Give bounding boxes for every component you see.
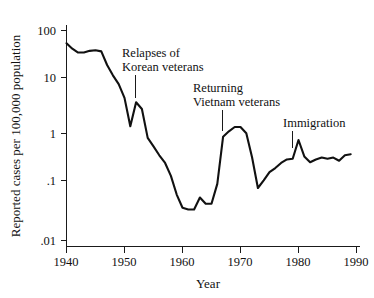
annotation-returning-vietnam-line2: Vietnam veterans: [193, 95, 280, 109]
annotation-relapses-korean-line2: Korean veterans: [122, 60, 204, 74]
axis-lines: [67, 25, 361, 247]
tuberculosis-log-line-chart: 100 10 1 .1 .01 1940 1950 1960 1970 1980…: [0, 0, 374, 298]
x-tick-label-1950: 1950: [112, 255, 137, 269]
x-tick-label-1970: 1970: [228, 255, 253, 269]
x-axis-title: Year: [196, 276, 221, 291]
annotation-relapses-korean-line1: Relapses of: [122, 46, 181, 60]
annotation-relapses-korean: Relapses of Korean veterans: [122, 46, 204, 74]
annotation-immigration: Immigration: [283, 116, 346, 130]
x-tick-label-1960: 1960: [170, 255, 195, 269]
x-axis-tick-labels: 1940 1950 1960 1970 1980 1990: [54, 255, 369, 269]
y-axis-ticks: [61, 31, 67, 241]
annotation-returning-vietnam: Returning Vietnam veterans: [193, 81, 280, 109]
x-axis-ticks: [67, 247, 357, 253]
y-tick-label-100: 100: [37, 24, 56, 38]
y-tick-label-point1: .1: [47, 174, 56, 188]
y-tick-label-1: 1: [50, 127, 56, 141]
y-tick-label-10: 10: [44, 71, 57, 85]
annotation-returning-vietnam-line1: Returning: [193, 81, 244, 95]
chart-figure: 100 10 1 .1 .01 1940 1950 1960 1970 1980…: [0, 0, 374, 298]
y-axis-title: Reported cases per 100,000 population: [8, 34, 23, 237]
x-tick-label-1990: 1990: [344, 255, 369, 269]
y-tick-label-point01: .01: [40, 234, 56, 248]
annotation-immigration-line1: Immigration: [283, 116, 346, 130]
x-tick-label-1980: 1980: [286, 255, 311, 269]
x-tick-label-1940: 1940: [54, 255, 79, 269]
y-axis-tick-labels: 100 10 1 .1 .01: [37, 24, 56, 248]
